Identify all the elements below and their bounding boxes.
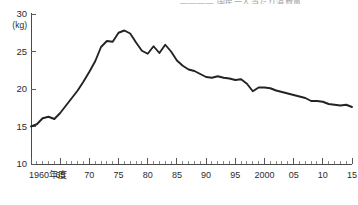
y-tick-label: 20 — [16, 83, 27, 94]
y-axis-unit-label: (kg) — [12, 20, 27, 30]
chart-container: ———— 国民一人当たり消費量 3025201510(kg)1960年度6570… — [0, 0, 358, 205]
x-tick-label: 65 — [55, 170, 65, 180]
y-tick-label: 10 — [16, 158, 27, 169]
x-tick-label: 85 — [172, 170, 182, 180]
y-tick-label: 25 — [16, 46, 27, 57]
x-tick-label: 10 — [318, 170, 328, 180]
x-tick-label: 05 — [289, 170, 299, 180]
x-tick-label: 15 — [347, 170, 357, 180]
x-tick-label: 95 — [230, 170, 240, 180]
series-line-0 — [31, 31, 352, 127]
x-tick-label: 80 — [143, 170, 153, 180]
line-chart-canvas: 3025201510(kg)1960年度65707580859095200005… — [0, 0, 358, 205]
y-tick-label: 30 — [16, 8, 27, 19]
x-tick-label: 2000 — [254, 170, 274, 180]
x-tick-label: 90 — [201, 170, 211, 180]
x-tick-label: 70 — [84, 170, 94, 180]
x-tick-label: 75 — [114, 170, 124, 180]
y-tick-label: 15 — [16, 121, 27, 132]
